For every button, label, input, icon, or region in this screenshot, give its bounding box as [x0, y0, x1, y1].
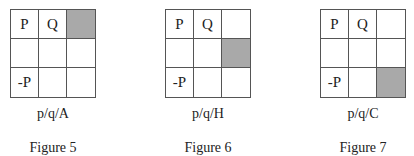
grid-cell — [39, 39, 67, 68]
figure-6: PQ-P p/q/H Figure 6 — [165, 9, 251, 156]
grid-cell: -P — [321, 68, 349, 97]
grid: PQ-P — [320, 9, 406, 98]
grid-cell: -P — [11, 68, 39, 97]
grid-cell: Q — [39, 10, 67, 39]
figure-caption: Figure 6 — [165, 140, 251, 156]
shaded-cell — [222, 39, 250, 68]
figure-caption: Figure 7 — [320, 140, 406, 156]
grid-cell — [222, 68, 250, 97]
grid-cell — [349, 39, 377, 68]
grid-cell — [67, 68, 95, 97]
shaded-cell — [377, 68, 405, 97]
figure-5: PQ-P p/q/A Figure 5 — [10, 9, 96, 156]
grid-label: p/q/A — [10, 106, 96, 122]
grid-cell — [166, 39, 194, 68]
grid-cell: -P — [166, 68, 194, 97]
grid-cell — [377, 39, 405, 68]
grid-cell — [67, 39, 95, 68]
grid-cell — [39, 68, 67, 97]
grid-cell — [11, 39, 39, 68]
grid-cell — [222, 10, 250, 39]
grid: PQ-P — [10, 9, 96, 98]
figure-7: PQ-P p/q/C Figure 7 — [320, 9, 406, 156]
grid-cell — [377, 10, 405, 39]
grid-cell — [194, 68, 222, 97]
grid: PQ-P — [165, 9, 251, 98]
grid-cell — [321, 39, 349, 68]
grid-cell — [194, 39, 222, 68]
grid-label: p/q/C — [320, 106, 406, 122]
grid-label: p/q/H — [165, 106, 251, 122]
grid-cell: Q — [194, 10, 222, 39]
grid-cell: P — [166, 10, 194, 39]
grid-cell: Q — [349, 10, 377, 39]
grid-cell — [349, 68, 377, 97]
figure-caption: Figure 5 — [10, 140, 96, 156]
grid-cell: P — [321, 10, 349, 39]
grid-cell: P — [11, 10, 39, 39]
shaded-cell — [67, 10, 95, 39]
